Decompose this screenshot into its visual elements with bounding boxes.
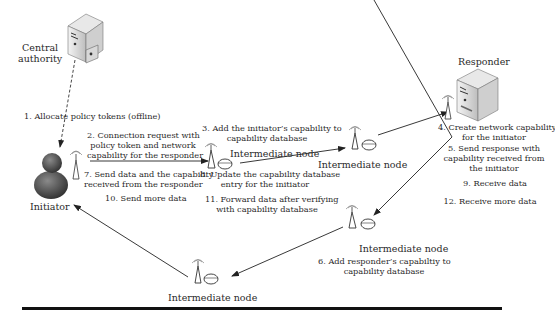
step-4-line2: for the initiator <box>438 132 550 142</box>
central-authority-label: Central authority <box>18 42 62 64</box>
arrow-node-d-to-initiator <box>74 205 188 277</box>
step-5-line3: the initiator <box>438 163 550 173</box>
step-2-line1: 2. Connection request with <box>87 130 199 140</box>
step-6-line1: 6. Add responder’s capabiltiy to <box>318 256 450 266</box>
step-6-line2: capability database <box>318 266 450 276</box>
step-8-line2: entry for the initiator <box>200 179 330 189</box>
step-10-label: 10. Send more data <box>105 193 185 203</box>
step-12-label: 12. Receive more data <box>440 196 540 206</box>
arrow-responder-to-node-c <box>374 0 452 137</box>
step-8-line1: 8. Update the capability database <box>200 169 330 179</box>
central-authority-label-line1: Central <box>18 42 62 53</box>
node-a-database-icon <box>218 159 232 169</box>
step-1-label: 1. Allocate policy tokens (offline) <box>24 111 161 121</box>
step-9-label: 9. Receive data <box>460 178 530 188</box>
step-4-line1: 4. Create network capability <box>438 122 550 132</box>
bottom-rule <box>22 307 502 310</box>
step-2-line3: capability for the responder <box>87 150 199 160</box>
initiator-antenna-icon <box>70 151 82 179</box>
step-11-label: 11. Forward data after verifying with ca… <box>205 194 329 214</box>
step-7-line2: received from the responder <box>84 179 202 189</box>
step-11-line2: with capability database <box>205 204 329 214</box>
step-4-label: 4. Create network capability for the ini… <box>438 122 550 142</box>
step-3-line2: capability database <box>202 133 332 143</box>
step-7-label: 7. Send data and the capability received… <box>84 169 202 189</box>
node-d-router-icon <box>192 260 204 284</box>
dashed-arrow-allocate-tokens <box>60 60 75 147</box>
node-b-router-icon <box>349 127 361 150</box>
node-a-router-icon <box>205 144 217 169</box>
step-7-line1: 7. Send data and the capability <box>84 169 202 179</box>
central-authority-server-icon <box>68 14 103 63</box>
initiator-user-icon <box>34 153 68 199</box>
node-c-router-icon <box>346 206 358 229</box>
responder-label: Responder <box>458 56 510 67</box>
node-c-label: Intermediate node <box>359 243 448 254</box>
step-2-label: 2. Connection request with policy token … <box>87 130 199 160</box>
responder-antenna-icon <box>442 96 454 120</box>
node-d-database-icon <box>204 274 218 284</box>
node-a-label: Intermediate node <box>230 148 319 159</box>
step-2-line2: policy token and network <box>87 140 199 150</box>
step-8-label: 8. Update the capability database entry … <box>200 169 330 189</box>
step-5-line2: capability received from <box>438 153 550 163</box>
node-b-database-icon <box>362 140 376 150</box>
node-c-database-icon <box>361 219 375 229</box>
initiator-label: Initiator <box>30 201 70 212</box>
responder-server-icon <box>457 69 498 121</box>
step-11-line1: 11. Forward data after verifying <box>205 194 329 204</box>
step-5-label: 5. Send response with capability receive… <box>438 143 550 173</box>
node-d-label: Intermediate node <box>168 292 257 303</box>
step-3-line1: 3. Add the initiator’s capability to <box>202 123 332 133</box>
step-6-label: 6. Add responder’s capabiltiy to capabil… <box>318 256 450 276</box>
central-authority-label-line2: authority <box>18 53 62 64</box>
step-3-label: 3. Add the initiator’s capability to cap… <box>202 123 332 143</box>
step-5-line1: 5. Send response with <box>438 143 550 153</box>
